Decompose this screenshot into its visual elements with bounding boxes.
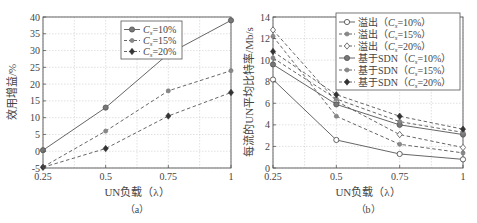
data-point-marker (228, 18, 233, 23)
legend-marker (129, 27, 134, 32)
chart-a-xlabel: UN负载（λ） (104, 185, 169, 198)
y-tick-label: 40 (30, 12, 40, 23)
data-point-marker (104, 129, 108, 133)
x-tick-label: 0.75 (391, 171, 409, 182)
data-point-marker (228, 89, 233, 95)
data-point-marker (461, 151, 465, 155)
y-tick-label: 5 (35, 129, 40, 140)
data-point-marker (40, 148, 45, 153)
data-point-marker (397, 113, 402, 119)
legend-marker (345, 68, 349, 72)
data-point-marker (460, 157, 465, 162)
legend-entry: 基于SDN（Cs=15%） (358, 64, 451, 78)
y-tick-label: 0 (35, 146, 40, 157)
y-tick-label: 8 (265, 76, 270, 87)
data-point-marker (271, 34, 275, 38)
chart-b-xlabel: UN负载（λ） (335, 185, 400, 198)
x-tick-label: 1 (461, 171, 466, 182)
x-tick-label: 0.25 (34, 171, 52, 182)
y-tick-label: 10 (260, 55, 270, 66)
y-tick-label: 12 (260, 33, 270, 44)
legend-entry: 基于SDN（Cs=20%） (358, 76, 451, 90)
data-point-marker (460, 144, 465, 150)
y-tick-label: 30 (30, 45, 40, 56)
chart-a-legend: Cs=10%Cs=15%Cs=20% (121, 21, 182, 59)
data-point-marker (270, 62, 275, 67)
chart-a: -50510152025303540 0.250.50.751 效用增益/% U… (0, 0, 240, 223)
legend-marker (344, 19, 349, 24)
y-tick-label: 14 (260, 12, 270, 23)
legend-entry: 基于SDN（Cs=10%） (358, 52, 451, 66)
data-point-marker (270, 48, 275, 54)
data-point-marker (166, 113, 171, 119)
y-tick-label: 6 (265, 98, 270, 109)
data-point-marker (166, 89, 170, 93)
data-point-marker (334, 91, 339, 97)
chart-b-legend: 溢出（Cs=10%）溢出（Cs=15%）溢出（Cs=20%）基于SDN（Cs=1… (336, 13, 460, 90)
chart-a-ylabel: 效用增益/% (5, 64, 18, 120)
chart-b: 02468101214 0.250.50.751 每流的UN平均比特率/Mb/s… (240, 0, 477, 223)
data-point-marker (334, 137, 339, 142)
data-point-marker (103, 105, 108, 110)
data-point-marker (397, 151, 402, 156)
y-tick-label: 10 (30, 112, 40, 123)
x-tick-label: 1 (229, 171, 234, 182)
y-tick-label: 2 (265, 141, 270, 152)
legend-marker (344, 55, 349, 60)
y-tick-label: 4 (265, 119, 270, 130)
data-point-marker (398, 120, 402, 124)
data-point-marker (334, 102, 339, 107)
x-tick-label: 0.5 (330, 171, 343, 182)
y-tick-label: 35 (30, 28, 40, 39)
y-tick-label: 20 (30, 79, 40, 90)
chart-b-ylabel: 每流的UN平均比特率/Mb/s (242, 27, 255, 157)
chart-b-panel-label: （b） (356, 204, 381, 215)
data-point-marker (103, 145, 108, 151)
y-tick-label: 25 (30, 62, 40, 73)
chart-a-panel-label: （a） (125, 204, 149, 215)
x-tick-label: 0.75 (160, 171, 178, 182)
data-point-marker (334, 114, 338, 118)
data-point-marker (398, 142, 402, 146)
y-tick-label: 15 (30, 95, 40, 106)
x-tick-label: 0.5 (99, 171, 112, 182)
x-tick-label: 0.25 (264, 171, 282, 182)
data-point-marker (271, 56, 275, 60)
data-point-marker (229, 69, 233, 73)
data-point-marker (397, 131, 402, 137)
legend-marker (130, 38, 134, 42)
legend-marker (345, 32, 349, 36)
